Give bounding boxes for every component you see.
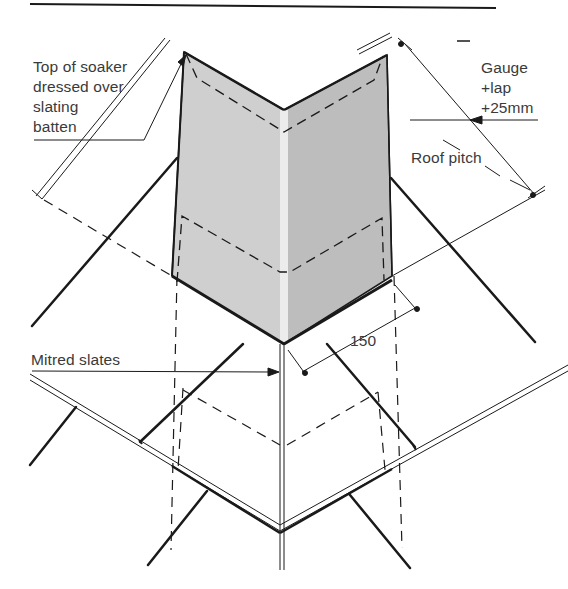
- slating-batten-right-top: [357, 33, 392, 54]
- label-roof-pitch: Roof pitch: [411, 148, 482, 168]
- soaker-fold-highlight: [280, 110, 288, 344]
- header-rule: [30, 4, 496, 8]
- mitred-slates-course: [30, 344, 568, 570]
- soaker-right-face: [284, 55, 392, 344]
- label-mitred-slates: Mitred slates: [31, 350, 120, 370]
- label-dimension-150: 150: [350, 331, 376, 351]
- label-top-of-soaker: Top of soaker dressed over slating batte…: [33, 57, 127, 137]
- soaker-left-face: [172, 52, 284, 344]
- soaker: [172, 52, 392, 344]
- label-gauge-lap: Gauge +lap +25mm: [481, 58, 534, 118]
